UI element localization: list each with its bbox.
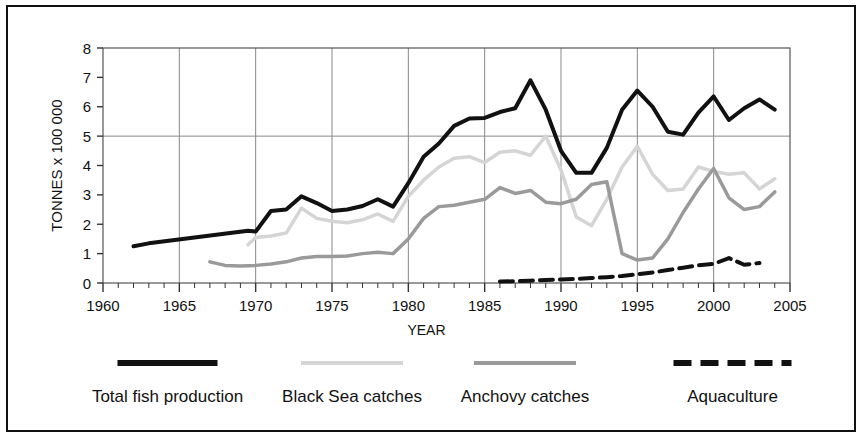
series-line-aquaculture [500,258,760,282]
grid-layer [103,48,790,283]
tick-marks [97,48,790,292]
axis-labels-layer: 0123456781960196519701975198019851990199… [48,40,807,339]
chart-legend: Total fish productionBlack Sea catchesAn… [92,363,792,406]
axes-layer [103,48,790,283]
data-series-layer [134,80,775,281]
x-axis-title: YEAR [407,322,445,338]
x-tick-label: 1965 [163,297,196,314]
y-axis-title: TONNES x 100 000 [48,99,65,231]
plot-frame [103,48,790,283]
y-tick-label: 7 [83,69,91,86]
x-tick-label: 1990 [544,297,577,314]
y-tick-label: 4 [83,157,91,174]
x-tick-label: 1975 [315,297,348,314]
x-tick-label: 2000 [697,297,730,314]
y-tick-label: 6 [83,98,91,115]
legend-label-anchovy-catches: Anchovy catches [461,387,590,406]
y-tick-label: 3 [83,186,91,203]
y-tick-label: 2 [83,216,91,233]
y-tick-label: 1 [83,245,91,262]
x-tick-label: 1995 [621,297,654,314]
legend-label-aquaculture: Aquaculture [687,387,778,406]
fisheries-line-chart: 0123456781960196519701975198019851990199… [0,0,864,439]
y-tick-label: 8 [83,40,91,57]
chart-container: 0123456781960196519701975198019851990199… [0,0,864,439]
x-tick-label: 1985 [468,297,501,314]
legend-label-black-sea-catches: Black Sea catches [282,387,422,406]
x-tick-label: 1980 [392,297,425,314]
x-tick-label: 2005 [773,297,806,314]
legend-label-total-fish-production: Total fish production [92,387,243,406]
x-tick-label: 1970 [239,297,272,314]
y-tick-label: 5 [83,128,91,145]
x-tick-label: 1960 [86,297,119,314]
y-tick-label: 0 [83,275,91,292]
